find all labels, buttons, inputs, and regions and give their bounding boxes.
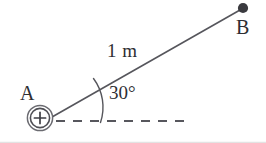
line-a-to-b [52, 10, 240, 117]
label-distance-1m: 1 m [107, 41, 138, 60]
label-point-a: A [20, 83, 34, 103]
label-angle-30-degrees: 30° [109, 83, 136, 102]
label-point-b: B [236, 17, 249, 37]
diagram-canvas [0, 0, 266, 143]
physics-diagram-figure: A B 1 m 30° [0, 0, 266, 143]
point-b-dot [238, 3, 248, 13]
angle-arc [94, 79, 104, 123]
